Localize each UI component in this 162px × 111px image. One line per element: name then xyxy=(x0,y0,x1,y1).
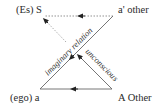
schema-l-diagram: imaginary relation unconscious xyxy=(0,0,162,111)
edge-dotted-diagonal xyxy=(44,19,66,42)
unconscious-label: unconscious xyxy=(84,46,121,83)
edge-unconscious: unconscious xyxy=(78,46,121,89)
edge-imaginary-relation: imaginary relation xyxy=(40,16,113,89)
